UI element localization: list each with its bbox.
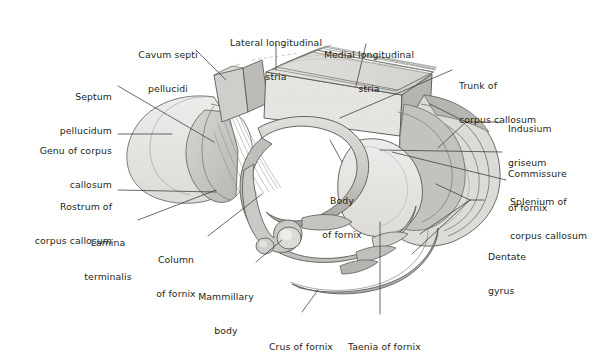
label-line: Medial longitudinal: [310, 49, 428, 60]
label-line: Indusium: [508, 123, 608, 134]
label-line: terminalis: [72, 271, 144, 282]
label-taenia-of-fornix: Taenia of fornix: [348, 318, 458, 354]
label-line: Septum: [20, 91, 112, 102]
label-line: Taenia of fornix: [348, 341, 458, 352]
label-line: Cavum septi: [120, 49, 216, 60]
label-line: body: [186, 325, 266, 336]
label-line: Splenium of: [510, 196, 609, 207]
label-line: Column: [140, 254, 212, 265]
label-line: Trunk of: [459, 80, 599, 91]
label-medial-longitudinal-stria: Medial longitudinal stria: [310, 26, 428, 117]
label-line: callosum: [2, 179, 112, 190]
label-septum-pellucidum: Septum pellucidum: [20, 68, 112, 159]
label-line: Dentate: [488, 251, 588, 262]
label-line: stria: [310, 83, 428, 94]
label-body-of-fornix: Body of fornix: [308, 172, 376, 263]
label-column-of-fornix: Column of fornix: [140, 231, 212, 322]
label-line: Body: [308, 195, 376, 206]
label-cavum-septi-pellucidi: Cavum septi pellucidi: [120, 26, 216, 117]
label-line: pellucidi: [120, 83, 216, 94]
label-line: gyrus: [488, 285, 588, 296]
label-line: corpus callosum: [2, 235, 112, 246]
label-line: pellucidum: [20, 125, 112, 136]
label-line: of fornix: [140, 288, 212, 299]
label-dentate-gyrus: Dentate gyrus: [488, 228, 588, 319]
label-line: of fornix: [308, 229, 376, 240]
